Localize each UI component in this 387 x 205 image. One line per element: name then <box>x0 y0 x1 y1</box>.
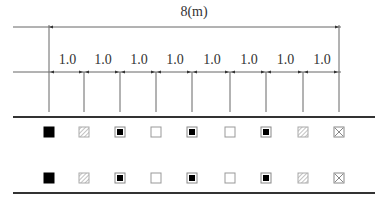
empty-square-icon <box>225 173 235 183</box>
spacing-label: 1.0 <box>59 52 77 67</box>
symbol-row-1 <box>44 127 345 138</box>
spacing-label: 1.0 <box>94 52 112 67</box>
spacing-label: 1.0 <box>130 52 148 67</box>
arrowhead-left-icon <box>121 71 125 74</box>
arrowhead-right-icon <box>187 71 191 74</box>
crossed-square-icon <box>334 173 344 183</box>
hatched-square-icon <box>79 173 89 183</box>
empty-square-icon <box>225 127 235 137</box>
arrowhead-left-icon <box>193 71 197 74</box>
overall-dimension-label: 8(m) <box>180 4 208 20</box>
arrowhead-right-icon <box>225 71 229 74</box>
arrowhead-right-icon <box>335 26 339 29</box>
dotted-square-icon <box>187 173 197 183</box>
spacing-label: 1.0 <box>240 52 258 67</box>
spacing-label: 1.0 <box>277 52 295 67</box>
spacing-dimension: 1.01.01.01.01.01.01.01.0 <box>13 52 341 74</box>
hatched-square-icon <box>79 127 89 137</box>
empty-square-icon <box>151 127 161 137</box>
spacing-labels: 1.01.01.01.01.01.01.01.0 <box>59 52 331 67</box>
dotted-square-icon <box>261 127 271 137</box>
dotted-square-icon <box>115 173 125 183</box>
arrowhead-left-icon <box>50 71 54 74</box>
arrowhead-left-icon <box>231 71 235 74</box>
dotted-square-icon <box>187 127 197 137</box>
overall-dimension: 8(m) <box>13 4 341 29</box>
arrowhead-right-icon <box>334 71 338 74</box>
tick-lines <box>84 72 303 112</box>
filled-square-icon <box>44 173 55 184</box>
arrowhead-right-icon <box>298 71 302 74</box>
hatched-square-icon <box>298 127 308 137</box>
dotted-square-icon <box>261 173 271 183</box>
spacing-label: 1.0 <box>313 52 331 67</box>
spacing-label: 1.0 <box>203 52 221 67</box>
arrowhead-left-icon <box>304 71 308 74</box>
dotted-square-icon <box>115 127 125 137</box>
filled-square-icon <box>44 127 55 138</box>
arrowhead-left-icon <box>85 71 89 74</box>
spacing-diagram: 8(m) 1.01.01.01.01.01.01.01.0 <box>0 0 387 205</box>
arrowhead-left-icon <box>157 71 161 74</box>
symbol-row-2 <box>44 173 345 184</box>
arrowhead-left-icon <box>267 71 271 74</box>
arrowhead-right-icon <box>261 71 265 74</box>
empty-square-icon <box>151 173 161 183</box>
arrowhead-right-icon <box>115 71 119 74</box>
spacing-label: 1.0 <box>166 52 184 67</box>
arrowhead-left-icon <box>49 26 53 29</box>
arrowhead-right-icon <box>79 71 83 74</box>
hatched-square-icon <box>298 173 308 183</box>
crossed-square-icon <box>334 127 344 137</box>
arrowhead-right-icon <box>151 71 155 74</box>
